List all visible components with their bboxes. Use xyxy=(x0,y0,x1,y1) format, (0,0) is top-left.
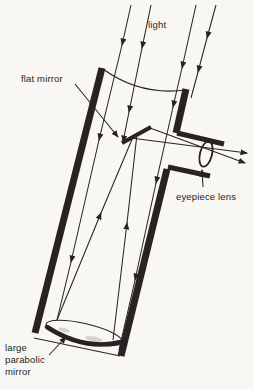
eyepiece-tube xyxy=(168,133,224,176)
reflected-rays-up xyxy=(57,134,137,340)
parabolic-mirror-leader-arrow xyxy=(49,337,66,355)
label-parabolic-mirror: large parabolic mirror xyxy=(5,342,45,377)
label-parabolic-mirror-line3: mirror xyxy=(5,366,31,377)
tube-right-wall-lower xyxy=(121,169,167,356)
light-ray-1 xyxy=(57,5,131,320)
label-flat-mirror: flat mirror xyxy=(21,73,63,84)
parabolic-mirror xyxy=(44,315,124,351)
light-ray-2 xyxy=(123,5,151,142)
label-eyepiece-lens: eyepiece lens xyxy=(176,191,236,202)
tube-right-wall-upper xyxy=(176,89,186,133)
telescope-tube xyxy=(34,68,186,356)
eyepiece-tube-bottom-wall xyxy=(168,167,210,176)
reflected-ray-left xyxy=(57,137,133,320)
eyepiece-tube-top-wall xyxy=(177,133,224,144)
eyepiece-lens xyxy=(197,140,215,168)
telescope-diagram-canvas: light flat mirror eyepiece lens large pa… xyxy=(0,0,254,389)
label-light: light xyxy=(148,19,166,30)
light-ray-3 xyxy=(119,5,196,350)
telescope-diagram: light flat mirror eyepiece lens large pa… xyxy=(0,0,254,389)
exit-ray-upper xyxy=(131,138,247,153)
light-ray-4 xyxy=(191,5,216,98)
label-parabolic-mirror-line1: large xyxy=(5,342,27,353)
mirror-surface xyxy=(47,327,121,344)
label-parabolic-mirror-line2: parabolic xyxy=(5,354,45,365)
